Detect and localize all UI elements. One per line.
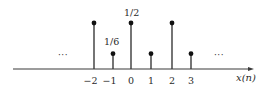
stem-plot: −2−10123 1/2 1/6 ··· ··· x(n) (0, 0, 267, 92)
stem-n3 (189, 51, 194, 69)
stem-marker-icon (92, 21, 97, 26)
stem-n2 (170, 21, 175, 69)
annotation-sixth: 1/6 (104, 36, 119, 47)
tick-label: 1 (148, 75, 154, 86)
axis-arrow-icon (248, 67, 254, 71)
stem-marker-icon (129, 21, 134, 26)
tick-labels: −2−10123 (83, 75, 194, 86)
annotation-half: 1/2 (124, 7, 139, 18)
stem-n0 (129, 21, 134, 69)
stem-n-2 (92, 21, 97, 69)
stem-n-1 (111, 51, 116, 69)
tick-label: 2 (169, 75, 175, 86)
x-axis-label: x(n) (236, 72, 256, 83)
tick-label: −1 (102, 75, 116, 86)
stem-marker-icon (189, 51, 194, 56)
stem-n1 (149, 51, 154, 69)
stem-marker-icon (170, 21, 175, 26)
tick-label: 0 (128, 75, 134, 86)
tick-label: 3 (188, 75, 194, 86)
ellipsis-right: ··· (214, 50, 224, 60)
stem-marker-icon (111, 51, 116, 56)
stem-marker-icon (149, 51, 154, 56)
ellipsis-left: ··· (58, 50, 68, 60)
tick-label: −2 (83, 75, 97, 86)
x-axis (13, 67, 254, 71)
